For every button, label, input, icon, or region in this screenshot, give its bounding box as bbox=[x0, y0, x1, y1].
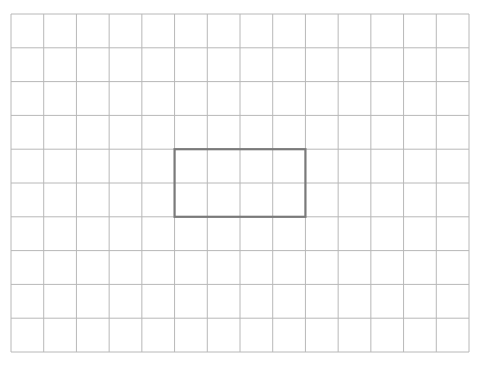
grid-lines bbox=[11, 14, 469, 352]
grid-diagram bbox=[0, 0, 478, 366]
